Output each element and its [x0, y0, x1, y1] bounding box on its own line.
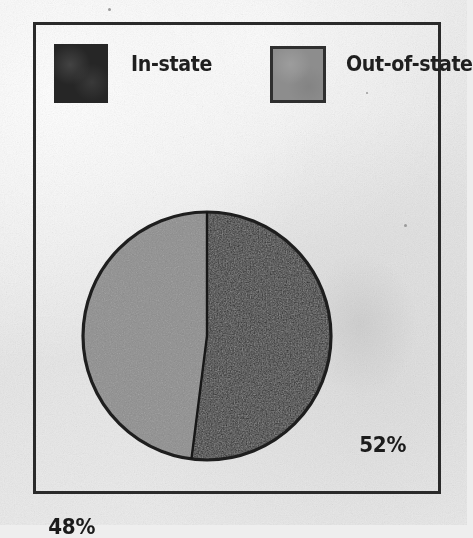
legend-label-out-of-state: Out-of-state [346, 52, 473, 76]
pie-plot-area: 52% 48% [36, 125, 438, 494]
chart-frame: In-state Out-of-state [33, 22, 441, 494]
chart-legend: In-state Out-of-state [36, 25, 438, 125]
legend-swatch-in-state [54, 44, 108, 103]
legend-label-in-state: In-state [131, 52, 212, 76]
pie-chart [81, 205, 333, 467]
legend-swatch-out-of-state [270, 46, 326, 103]
pie-slice-in-state[interactable] [191, 212, 331, 460]
pie-slice-out-of-state[interactable] [83, 212, 207, 459]
scan-speck [108, 8, 111, 11]
pie-data-label-out-of-state: 48% [48, 515, 95, 538]
pie-data-label-in-state: 52% [359, 433, 406, 457]
